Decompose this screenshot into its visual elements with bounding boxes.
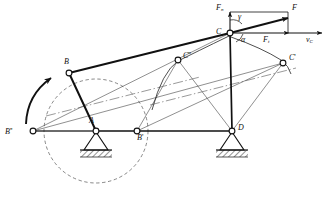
joint-C — [227, 30, 233, 36]
joint-B — [66, 70, 72, 76]
joint-Cpp — [175, 57, 181, 63]
velocity-label-vC: vC — [306, 36, 313, 45]
angle-label-gamma: γ — [238, 13, 241, 21]
force-label-Fn: Fn — [216, 4, 223, 13]
ground-support-D — [216, 128, 248, 157]
centreline-dashdot — [46, 77, 200, 116]
link-coupler-BC — [69, 33, 230, 73]
ground-support-A — [80, 128, 112, 157]
point-label-Bp: B' — [137, 134, 143, 142]
point-label-C: C — [216, 28, 221, 36]
force-label-Ft: Ft — [263, 36, 269, 45]
mechanism-diagram — [0, 0, 331, 203]
force-label-F: F — [292, 4, 297, 12]
arc-C-to-Cpp — [152, 36, 229, 110]
angle-label-alpha: α — [241, 36, 245, 44]
point-label-Cpp: C'' — [183, 52, 191, 60]
joint-Bpp — [30, 128, 36, 134]
centreline-dashdot-2 — [150, 68, 296, 105]
construction-line-Bpp-C — [33, 33, 230, 131]
rotation-direction-arrow — [26, 78, 51, 124]
joint-Cp — [280, 60, 286, 66]
arc-C-to-Cp — [231, 37, 291, 74]
figure-canvas: B A B' B'' C C' C'' D Fn F Ft vC γ α — [0, 0, 331, 203]
construction-line-D-Cpp — [178, 60, 232, 131]
construction-line-D-Cp — [232, 63, 283, 131]
point-label-A: A — [89, 117, 94, 125]
point-label-Cp: C' — [289, 54, 296, 62]
construction-line-Bp-Cpp — [137, 60, 178, 131]
point-label-D: D — [238, 124, 244, 132]
link-rocker-CD — [230, 33, 232, 131]
point-label-Bpp: B'' — [5, 128, 12, 136]
point-label-B: B — [64, 58, 69, 66]
